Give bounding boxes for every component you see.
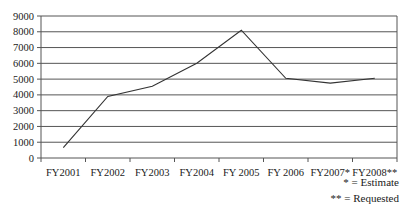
x-tick-label: FY2004 [180, 167, 215, 178]
y-tick-label: 0 [29, 153, 34, 164]
gridlines [37, 16, 397, 158]
y-tick-label: 8000 [13, 26, 34, 37]
y-tick-label: 2000 [13, 121, 34, 132]
y-tick-label: 1000 [13, 137, 34, 148]
x-tick-label: FY2003 [135, 167, 169, 178]
x-axis [41, 16, 397, 162]
x-tick-label: FY2002 [91, 167, 125, 178]
x-tick-label: FY 2005 [223, 167, 260, 178]
y-tick-label: 6000 [13, 58, 34, 69]
estimate-footnote: * = Estimate [343, 176, 399, 188]
y-axis-tick-labels: 0100020003000400050006000700080009000 [13, 11, 34, 164]
y-tick-label: 9000 [13, 11, 34, 22]
x-tick-label: FY 2006 [267, 167, 304, 178]
requested-footnote: ** = Requested [330, 192, 399, 204]
y-tick-label: 5000 [13, 74, 34, 85]
y-tick-label: 4000 [13, 89, 34, 100]
y-tick-label: 7000 [13, 42, 34, 53]
x-tick-label: FY2001 [46, 167, 80, 178]
y-tick-label: 3000 [13, 105, 34, 116]
